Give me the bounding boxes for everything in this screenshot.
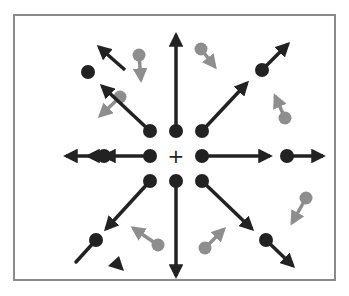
center-plus-marker: + (168, 144, 185, 168)
black-arrow-southeast-inner (202, 181, 252, 229)
black-dot (143, 124, 157, 138)
black-arrow-northeast-inner (202, 83, 247, 131)
black-dot (195, 149, 209, 163)
diagram-canvas: + (0, 0, 349, 296)
gray-dot (195, 43, 208, 56)
black-dot (195, 124, 209, 138)
gray-dot (279, 112, 292, 125)
black-arrow-northwest-detached (99, 47, 125, 70)
black-dot (195, 174, 209, 188)
black-vectors-layer (66, 35, 323, 276)
gray-dot (133, 49, 146, 62)
black-dot (255, 63, 269, 77)
arrowhead-triangle (108, 256, 124, 271)
gray-vectors-layer (100, 43, 313, 255)
vector-field-svg: + (0, 0, 349, 296)
gray-dot (199, 242, 212, 255)
black-dot (81, 65, 95, 79)
black-dot (169, 124, 183, 138)
gray-dot (152, 239, 165, 252)
black-dot (97, 149, 111, 163)
gray-dot (300, 192, 313, 205)
black-dot (143, 149, 157, 163)
black-dot (169, 174, 183, 188)
black-arrow-southwest-inner (106, 181, 150, 229)
black-dot (280, 149, 294, 163)
black-dot (143, 174, 157, 188)
black-dot (89, 233, 103, 247)
black-dot (259, 233, 273, 247)
